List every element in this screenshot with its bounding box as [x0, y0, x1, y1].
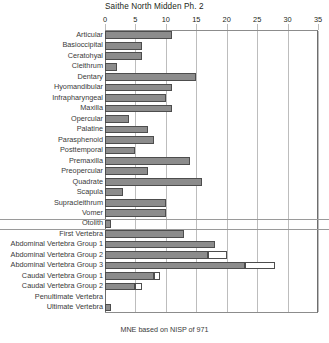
- y-axis-label-abdominal-vertebra-group-1: Abdominal Vertebra Group 1: [11, 239, 103, 249]
- bar-segment-filled: [105, 157, 190, 165]
- bar-segment-filled: [105, 283, 135, 291]
- chart-footnote: MNE based on NISP of 971: [0, 325, 329, 334]
- y-axis-label-first-vertebra: First Vertebra: [59, 229, 103, 239]
- x-tick-label-5: 5: [133, 15, 137, 24]
- bar-segment-filled: [105, 84, 172, 92]
- bar-row: Otolith: [0, 218, 329, 228]
- y-axis-label-caudal-vertebra-group-2: Caudal Vertebra Group 2: [22, 281, 103, 291]
- bar-rows: ArticularBasioccipitalCeratohyalCleithru…: [0, 30, 329, 313]
- bar-segment-filled: [105, 115, 129, 123]
- y-axis-label-quadrate: Quadrate: [73, 177, 103, 187]
- bar-track: [105, 239, 318, 249]
- bar-row: Maxilla: [0, 103, 329, 113]
- bar-row: Cleithrum: [0, 61, 329, 71]
- bar-segment-filled: [105, 167, 148, 175]
- bar-chart: Saithe North Midden Ph. 2 05101520253035…: [0, 0, 329, 343]
- bar-row: Abdominal Vertebra Group 1: [0, 239, 329, 249]
- x-tick-label-20: 20: [223, 15, 231, 24]
- y-axis-label-hyomandibular: Hyomandibular: [54, 82, 103, 92]
- x-tick-label-0: 0: [103, 15, 107, 24]
- bar-track: [105, 72, 318, 82]
- bar-segment-outline: [135, 283, 141, 291]
- y-axis-label-maxilla: Maxilla: [80, 103, 103, 113]
- y-axis-label-basioccipital: Basioccipital: [62, 40, 103, 50]
- bar-row: Articular: [0, 30, 329, 40]
- bar-segment-filled: [105, 52, 142, 60]
- bar-row: Opercular: [0, 114, 329, 124]
- bar-segment-filled: [105, 188, 123, 196]
- x-tick-label-35: 35: [314, 15, 322, 24]
- bar-row: Abdominal Vertebra Group 2: [0, 250, 329, 260]
- bar-row: Caudal Vertebra Group 1: [0, 271, 329, 281]
- bar-track: [105, 145, 318, 155]
- bar-row: Preopercular: [0, 166, 329, 176]
- bar-track: [105, 229, 318, 239]
- bar-segment-filled: [105, 105, 172, 113]
- bar-track: [105, 82, 318, 92]
- y-axis-label-opercular: Opercular: [71, 114, 103, 124]
- bar-row: Hyomandibular: [0, 82, 329, 92]
- bar-row: Abdominal Vertebra Group 3: [0, 260, 329, 270]
- bar-row: Vomer: [0, 208, 329, 218]
- bar-segment-filled: [105, 241, 215, 249]
- bar-row: Premaxilla: [0, 156, 329, 166]
- y-axis-label-preopercular: Preopercular: [61, 166, 103, 176]
- bar-track: [105, 51, 318, 61]
- x-tick-label-30: 30: [283, 15, 291, 24]
- bar-segment-filled: [105, 262, 245, 270]
- y-axis-label-ceratohyal: Ceratohyal: [68, 51, 103, 61]
- bar-segment-filled: [105, 178, 202, 186]
- bar-track: [105, 30, 318, 40]
- y-axis-label-articular: Articular: [76, 30, 103, 40]
- bar-track: [105, 124, 318, 134]
- bar-row: Dentary: [0, 72, 329, 82]
- y-axis-label-scapula: Scapula: [77, 187, 103, 197]
- bar-segment-filled: [105, 94, 166, 102]
- bar-row: Infrapharyngeal: [0, 93, 329, 103]
- bar-row: Supracleithrum: [0, 198, 329, 208]
- bar-track: [105, 292, 318, 302]
- bar-track: [105, 281, 318, 291]
- bar-segment-filled: [105, 31, 172, 39]
- bar-track: [105, 156, 318, 166]
- bar-row: Quadrate: [0, 177, 329, 187]
- bar-segment-outline: [245, 262, 275, 270]
- bar-segment-filled: [105, 63, 117, 71]
- bar-segment-outline: [154, 272, 160, 280]
- bar-track: [105, 61, 318, 71]
- y-axis-label-ultimate-vertebra: Ultimate Vertebra: [47, 302, 103, 312]
- bar-track: [105, 271, 318, 281]
- bar-track: [105, 166, 318, 176]
- bar-segment-outline: [208, 251, 226, 259]
- y-axis-label-premaxilla: Premaxilla: [69, 156, 103, 166]
- bar-segment-filled: [105, 251, 208, 259]
- bar-track: [105, 135, 318, 145]
- x-tick-label-10: 10: [162, 15, 170, 24]
- bar-track: [105, 198, 318, 208]
- y-axis-label-dentary: Dentary: [77, 72, 103, 82]
- y-axis-label-infrapharyngeal: Infrapharyngeal: [52, 93, 103, 103]
- bar-track: [105, 40, 318, 50]
- bar-row: Ceratohyal: [0, 51, 329, 61]
- bar-row: Basioccipital: [0, 40, 329, 50]
- bar-track: [105, 302, 318, 312]
- bar-row: Palatine: [0, 124, 329, 134]
- bar-track: [105, 93, 318, 103]
- y-axis-label-parasphenoid: Parasphenoid: [58, 135, 103, 145]
- y-axis-label-caudal-vertebra-group-1: Caudal Vertebra Group 1: [22, 271, 103, 281]
- bar-track: [105, 114, 318, 124]
- group-separator: [0, 229, 329, 230]
- bar-row: Parasphenoid: [0, 135, 329, 145]
- bar-segment-filled: [105, 147, 135, 155]
- bar-row: Scapula: [0, 187, 329, 197]
- x-axis-tick-labels: 05101520253035: [105, 15, 318, 27]
- bar-segment-filled: [105, 220, 111, 228]
- bar-row: Posttemporal: [0, 145, 329, 155]
- y-axis-label-posttemporal: Posttemporal: [60, 145, 103, 155]
- bar-track: [105, 177, 318, 187]
- bar-row: First Vertebra: [0, 229, 329, 239]
- x-tick-label-25: 25: [253, 15, 261, 24]
- bar-segment-filled: [105, 304, 111, 312]
- y-axis-label-palatine: Palatine: [77, 124, 103, 134]
- bar-segment-filled: [105, 199, 166, 207]
